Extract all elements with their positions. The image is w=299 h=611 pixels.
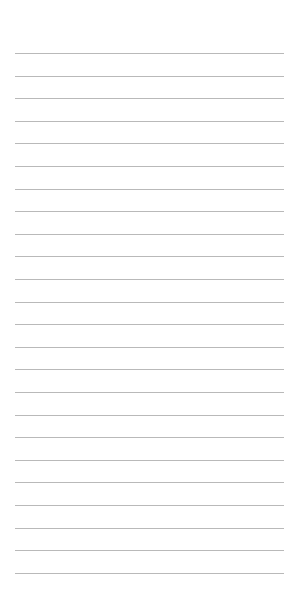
ruled-line	[15, 392, 284, 393]
ruled-line	[15, 482, 284, 483]
ruled-line	[15, 53, 284, 54]
ruled-line	[15, 256, 284, 257]
ruled-line	[15, 211, 284, 212]
ruled-line	[15, 550, 284, 551]
ruled-line	[15, 324, 284, 325]
ruled-line	[15, 98, 284, 99]
ruled-line	[15, 369, 284, 370]
ruled-line	[15, 143, 284, 144]
ruled-line	[15, 76, 284, 77]
ruled-line	[15, 121, 284, 122]
ruled-line	[15, 437, 284, 438]
ruled-line	[15, 505, 284, 506]
notepad-page	[0, 0, 299, 611]
ruled-line	[15, 347, 284, 348]
ruled-line	[15, 279, 284, 280]
ruled-line	[15, 528, 284, 529]
ruled-line	[15, 166, 284, 167]
ruled-line	[15, 460, 284, 461]
ruled-line	[15, 415, 284, 416]
ruled-line	[15, 302, 284, 303]
ruled-line	[15, 189, 284, 190]
ruled-line	[15, 234, 284, 235]
ruled-line	[15, 573, 284, 574]
